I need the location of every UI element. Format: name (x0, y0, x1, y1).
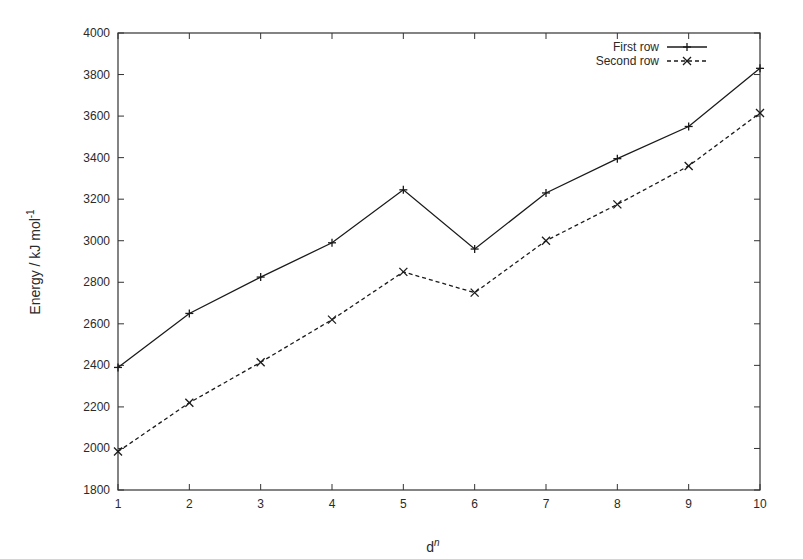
y-tick-label: 2600 (83, 317, 110, 331)
plot-frame (118, 33, 760, 490)
x-tick-label: 5 (400, 497, 407, 511)
y-tick-label: 4000 (83, 26, 110, 40)
y-axis-ticks: 1800200022002400260028003000320034003600… (83, 26, 760, 497)
series-first-row (114, 64, 764, 371)
series-line (118, 113, 760, 452)
legend-label: Second row (596, 54, 660, 68)
x-axis-ticks: 12345678910 (115, 33, 767, 511)
x-tick-label: 3 (257, 497, 264, 511)
x-tick-label: 1 (115, 497, 122, 511)
y-tick-label: 2200 (83, 400, 110, 414)
series-line (118, 68, 760, 367)
y-tick-label: 2400 (83, 358, 110, 372)
x-tick-label: 6 (471, 497, 478, 511)
plot-border (118, 33, 760, 490)
x-axis-label: dn (426, 537, 440, 555)
x-tick-label: 8 (614, 497, 621, 511)
x-tick-label: 4 (329, 497, 336, 511)
y-tick-label: 3000 (83, 234, 110, 248)
y-axis-label: Energy / kJ mol-1 (25, 209, 43, 315)
y-tick-label: 2000 (83, 441, 110, 455)
legend: First rowSecond row (596, 40, 707, 68)
legend-label: First row (613, 40, 659, 54)
line-chart: 1800200022002400260028003000320034003600… (0, 0, 803, 559)
x-tick-label: 2 (186, 497, 193, 511)
y-tick-label: 3200 (83, 192, 110, 206)
x-tick-label: 10 (753, 497, 767, 511)
y-tick-label: 3600 (83, 109, 110, 123)
x-tick-label: 7 (543, 497, 550, 511)
y-tick-label: 2800 (83, 275, 110, 289)
y-tick-label: 3400 (83, 151, 110, 165)
y-tick-label: 1800 (83, 483, 110, 497)
data-series (114, 64, 764, 455)
series-second-row (114, 109, 764, 456)
y-tick-label: 3800 (83, 68, 110, 82)
x-tick-label: 9 (685, 497, 692, 511)
